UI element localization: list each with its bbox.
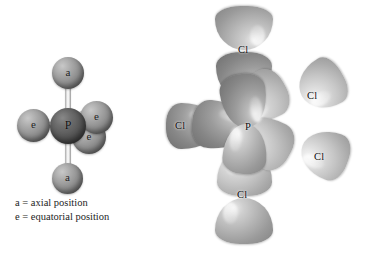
orbital-lobe-equatorial-upper-right-outer	[290, 52, 355, 118]
legend-line-equatorial: e = equatorial position	[15, 210, 109, 224]
atom-equatorial-left: e	[17, 109, 50, 142]
atom-axial-bottom: a	[52, 163, 83, 194]
orbital-label-equatorial-left: Cl	[175, 120, 185, 131]
atom-label: e	[94, 111, 99, 122]
atom-label: a	[65, 172, 70, 183]
atom-axial-top: a	[52, 57, 84, 89]
orbital-overlap-model: Cl Cl Cl Cl Cl P	[175, 0, 380, 253]
atom-label: P	[65, 119, 72, 131]
atom-label: a	[66, 67, 71, 78]
atom-label: e	[31, 119, 36, 130]
orbital-lobe-axial-bottom-outer	[215, 198, 273, 244]
orbital-label-central-phosphorus: P	[245, 121, 251, 132]
figure-canvas: a a e e e P a = axial position e = equat…	[0, 0, 380, 253]
legend: a = axial position e = equatorial positi…	[15, 196, 109, 225]
orbital-label-equatorial-upper-right: Cl	[307, 90, 317, 101]
legend-line-axial: a = axial position	[15, 196, 109, 210]
orbital-lobe-equatorial-lower-right-outer	[294, 123, 356, 185]
orbital-label-equatorial-lower-right: Cl	[314, 151, 324, 162]
orbital-label-axial-top: Cl	[238, 44, 248, 55]
orbital-label-axial-bottom: Cl	[237, 189, 247, 200]
ball-and-stick-model: a a e e e P	[0, 40, 175, 200]
atom-central-phosphorus: P	[50, 108, 86, 144]
